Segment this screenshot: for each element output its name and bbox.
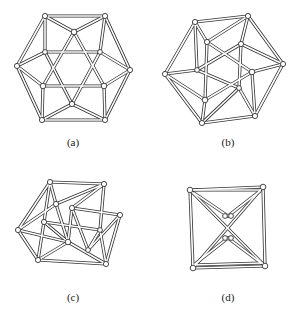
panel-a-label: (a): [53, 136, 93, 148]
panel-a-wireframe: [0, 0, 145, 155]
panel-d: (d): [145, 160, 291, 315]
panel-a: (a): [0, 0, 145, 155]
panel-b-label: (b): [208, 136, 248, 148]
panel-c: (c): [0, 160, 145, 315]
panel-c-label: (c): [53, 291, 93, 303]
panel-d-label: (d): [208, 291, 248, 303]
panel-b: (b): [145, 0, 291, 155]
panel-b-wireframe: [145, 0, 291, 155]
